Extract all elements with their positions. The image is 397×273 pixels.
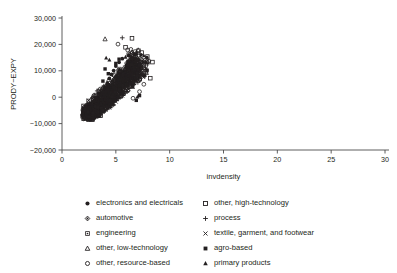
y-tick-label: 0 <box>52 93 56 102</box>
data-point-filled-circle <box>117 60 121 64</box>
data-point-filled-square <box>117 57 120 60</box>
open-circle-icon <box>83 259 96 268</box>
legend-item-label: electronics and electricals <box>96 199 183 207</box>
data-point-open-triangle <box>136 48 140 52</box>
data-point-filled-square <box>132 81 135 84</box>
legend-item[interactable]: engineering <box>83 226 183 240</box>
data-point-filled-circle <box>135 74 139 78</box>
x-tick-label: 20 <box>273 155 281 164</box>
cross-icon <box>201 229 214 238</box>
legend-item[interactable]: automotive <box>83 211 183 225</box>
data-point-plus <box>120 36 125 41</box>
open-circle-icon <box>83 259 92 268</box>
filled-circle-icon <box>83 199 92 208</box>
x-tick-label: 0 <box>60 155 64 164</box>
legend-item[interactable]: other, resource-based <box>83 256 183 270</box>
legend-item-label: automotive <box>96 214 133 222</box>
diamond-icon <box>83 214 96 223</box>
filled-triangle-icon <box>201 259 214 268</box>
data-point-filled-square <box>110 95 113 98</box>
data-point-filled-circle <box>112 69 116 73</box>
data-point-filled-square <box>107 72 110 75</box>
data-points <box>81 36 154 122</box>
filled-circle-icon <box>83 199 96 208</box>
x-axis-title: invdensity <box>207 172 241 181</box>
data-point-filled-circle <box>101 108 105 112</box>
chart-legend: electronics and electricalsautomotiveeng… <box>0 196 397 270</box>
data-point-filled-square <box>86 111 89 114</box>
legend-item-label: other, low-technology <box>96 244 168 252</box>
y-axis-title: PRODY−EXPY <box>9 58 18 110</box>
filled-square-icon <box>201 244 214 253</box>
data-point-filled-circle <box>94 105 98 109</box>
legend-item-label: textile, garment, and footwear <box>214 229 314 237</box>
cross-icon <box>201 229 210 238</box>
data-point-open-circle <box>138 90 142 94</box>
y-tick-label: −20,000 <box>30 146 56 155</box>
data-point-filled-square <box>103 67 106 70</box>
open-triangle-icon <box>83 244 96 253</box>
filled-square-icon <box>201 244 210 253</box>
data-point-open-square <box>130 37 134 41</box>
x-tick-label: 5 <box>114 155 118 164</box>
plot-area: −20,000−10,000010,00020,00030,0000510152… <box>0 0 397 196</box>
scatter-chart-figure: −20,000−10,000010,00020,00030,0000510152… <box>0 0 397 273</box>
legend-item[interactable]: other, low-technology <box>83 241 183 255</box>
legend-item-label: primary products <box>214 259 271 267</box>
data-point-filled-triangle <box>107 58 111 62</box>
data-point-filled-square <box>135 99 138 102</box>
legend-item[interactable]: textile, garment, and footwear <box>201 226 314 240</box>
data-point-filled-square <box>136 71 139 74</box>
legend-item[interactable]: electronics and electricals <box>83 196 183 210</box>
y-tick-label: 10,000 <box>34 66 56 75</box>
legend-item-label: process <box>214 214 241 222</box>
data-point-filled-square <box>138 64 141 67</box>
data-point-filled-square <box>101 79 104 82</box>
legend-item[interactable]: primary products <box>201 256 314 270</box>
open-square-icon <box>201 199 214 208</box>
legend-item[interactable]: agro-based <box>201 241 314 255</box>
data-point-filled-circle <box>121 84 125 88</box>
y-tick-label: −10,000 <box>30 119 56 128</box>
x-tick-label: 25 <box>327 155 335 164</box>
filled-triangle-icon <box>201 259 210 268</box>
legend-column-1: electronics and electricalsautomotiveeng… <box>83 196 183 270</box>
legend-item-label: agro-based <box>214 244 252 252</box>
data-point-open-circle <box>116 42 120 46</box>
data-point-filled-circle <box>91 112 95 116</box>
y-tick-label: 20,000 <box>34 40 56 49</box>
x-tick-label: 30 <box>381 155 389 164</box>
data-point-filled-square <box>114 90 117 93</box>
y-tick-label: 30,000 <box>34 14 56 23</box>
x-tick-label: 10 <box>166 155 174 164</box>
data-point-open-circle <box>142 82 146 86</box>
x-tick-label: 15 <box>220 155 228 164</box>
data-point-open-triangle <box>103 37 107 41</box>
data-point-filled-triangle <box>104 56 108 60</box>
legend-item-label: engineering <box>96 229 136 237</box>
open-triangle-icon <box>83 244 92 253</box>
legend-item[interactable]: other, high-technology <box>201 196 314 210</box>
plus-icon <box>201 214 214 223</box>
legend-item[interactable]: process <box>201 211 314 225</box>
diamond-icon <box>83 214 92 223</box>
core-density-points <box>81 48 151 122</box>
axes: −20,000−10,000010,00020,00030,0000510152… <box>9 14 389 181</box>
data-point-open-square <box>148 76 152 80</box>
legend-item-label: other, resource-based <box>96 259 170 267</box>
legend-column-2: other, high-technologyprocesstextile, ga… <box>201 196 314 270</box>
asterisk-square-icon <box>83 229 92 238</box>
asterisk-square-icon <box>83 229 96 238</box>
open-square-icon <box>201 199 210 208</box>
plus-icon <box>201 214 210 223</box>
data-point-filled-square <box>130 57 133 60</box>
data-point-open-square <box>151 60 155 64</box>
data-point-filled-circle <box>110 83 114 87</box>
data-point-filled-circle <box>139 53 143 57</box>
legend-item-label: other, high-technology <box>214 199 289 207</box>
data-point-filled-square <box>114 62 117 65</box>
data-point-open-circle <box>131 96 135 100</box>
